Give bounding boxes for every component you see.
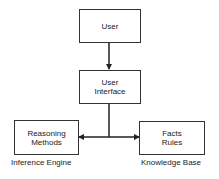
- user-interface-box: User Interface: [79, 70, 141, 104]
- facts-label-line2: Rules: [162, 138, 182, 147]
- reasoning-label-line2: Methods: [31, 138, 62, 147]
- reasoning-methods-box: Reasoning Methods: [14, 120, 79, 155]
- inference-engine-caption: Inference Engine: [11, 158, 72, 167]
- user-box: User: [79, 9, 141, 43]
- user-interface-label-line2: Interface: [94, 87, 125, 96]
- reasoning-label-line1: Reasoning: [27, 129, 65, 138]
- user-interface-label-line1: User: [102, 78, 119, 87]
- user-box-label: User: [102, 22, 119, 31]
- facts-rules-box: Facts Rules: [139, 121, 205, 155]
- facts-label-line1: Facts: [162, 129, 182, 138]
- knowledge-base-caption: Knowledge Base: [141, 158, 201, 167]
